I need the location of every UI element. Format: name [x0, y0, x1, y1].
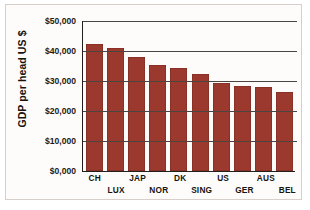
- y-axis-tick-label: $20,000: [24, 106, 76, 116]
- x-axis-tick-labels: CHLUXJAPNORDKSINGUSGERAUSBEL: [82, 173, 295, 205]
- x-axis-tick-label: US: [206, 173, 240, 183]
- bar: [234, 86, 251, 172]
- x-axis-tick-label: NOR: [142, 185, 176, 195]
- y-axis-tick-label: $10,000: [24, 136, 76, 146]
- x-axis-tick-label: DK: [163, 173, 197, 183]
- x-axis-tick-label: SING: [185, 185, 219, 195]
- y-axis-tick-labels: $50,000 $40,000 $30,000 $20,000 $10,000 …: [16, 5, 76, 199]
- bar: [86, 44, 103, 172]
- x-axis-tick-label: CH: [78, 173, 112, 183]
- y-axis-tick-label: $30,000: [24, 76, 76, 86]
- chart-figure: GDP per head US $ $50,000 $40,000 $30,00…: [5, 4, 302, 200]
- bar: [107, 48, 124, 171]
- bar: [149, 65, 166, 172]
- x-axis-tick-label: BEL: [270, 185, 304, 195]
- bar: [255, 87, 272, 171]
- x-axis-tick-label: AUS: [249, 173, 283, 183]
- plot-area: [82, 21, 295, 172]
- bar: [276, 92, 293, 172]
- bar: [170, 68, 187, 172]
- y-axis-tick-label: $0,000: [24, 166, 76, 176]
- y-axis-tick-label: $50,000: [24, 16, 76, 26]
- x-axis-tick-label: LUX: [99, 185, 133, 195]
- bar: [192, 74, 209, 172]
- y-axis-tick-label: $40,000: [24, 46, 76, 56]
- x-axis-tick-label: GER: [228, 185, 262, 195]
- bar: [213, 83, 230, 172]
- bar-series: [83, 21, 295, 171]
- x-axis-tick-label: JAP: [121, 173, 155, 183]
- bar: [128, 57, 145, 171]
